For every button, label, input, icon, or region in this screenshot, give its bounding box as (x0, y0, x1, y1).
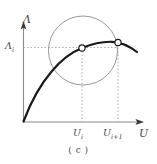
x-tick-base: U (73, 127, 81, 138)
x-tick-sub: i+1 (111, 133, 123, 141)
y-tick-base: Λ (5, 40, 12, 51)
y-tick-label-lambda-i: Λi (5, 41, 14, 53)
marker-u-i (79, 45, 85, 51)
x-tick-base: U (103, 127, 111, 138)
marker-u-i-plus-1 (115, 39, 121, 45)
x-axis-label: U (139, 128, 148, 139)
figure-caption: ( c ) (0, 146, 157, 155)
y-tick-sub: i (12, 46, 14, 54)
x-tick-label-u-i: Ui (73, 128, 83, 140)
x-tick-sub: i (81, 133, 83, 141)
figure-container: Λ Λi U Ui Ui+1 ( c ) (0, 0, 157, 164)
x-tick-label-u-i-plus-1: Ui+1 (103, 128, 123, 140)
markers-group (79, 39, 121, 51)
growth-rate-curve (24, 42, 138, 122)
y-axis-label: Λ (23, 14, 31, 25)
